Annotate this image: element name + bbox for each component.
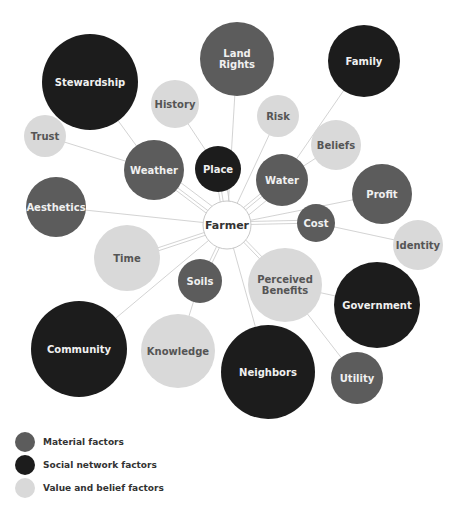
node-label: Profit — [366, 189, 398, 200]
node-trust: Trust — [24, 115, 66, 157]
social-swatch-icon — [15, 455, 35, 475]
node-cost: Cost — [297, 204, 335, 242]
node-label: Knowledge — [147, 346, 210, 357]
legend-label-social: Social network factors — [43, 460, 157, 470]
node-label: Identity — [396, 240, 441, 251]
node-label: Stewardship — [55, 77, 126, 88]
node-soils: Soils — [178, 259, 222, 303]
node-label: Aesthetics — [26, 202, 85, 213]
factor-network-diagram: StewardshipLandRightsFamilyHistoryRiskTr… — [0, 0, 464, 420]
node-beliefs: Beliefs — [311, 120, 361, 170]
node-land-rights: LandRights — [200, 22, 274, 96]
node-aesthetics: Aesthetics — [26, 177, 86, 237]
node-utility: Utility — [331, 352, 383, 404]
node-family: Family — [328, 25, 400, 97]
node-label: Soils — [187, 276, 214, 287]
node-history: History — [151, 80, 199, 128]
node-label: Water — [265, 175, 299, 186]
node-time: Time — [94, 225, 160, 291]
center-node-farmer: Farmer — [203, 201, 251, 249]
legend-item-social: Social network factors — [15, 453, 164, 476]
node-label: Benefits — [262, 285, 308, 296]
legend-item-material: Material factors — [15, 430, 164, 453]
node-stewardship: Stewardship — [42, 34, 138, 130]
node-label: History — [155, 99, 196, 110]
node-label: Land — [223, 48, 250, 59]
node-label: Family — [346, 56, 383, 67]
node-label: Place — [203, 164, 233, 175]
legend: Material factors Social network factors … — [15, 430, 164, 499]
node-profit: Profit — [352, 164, 412, 224]
node-place: Place — [195, 146, 241, 192]
node-label: Cost — [304, 218, 329, 229]
node-label: Rights — [219, 59, 255, 70]
node-perceived-benefits: PerceivedBenefits — [248, 248, 322, 322]
node-label: Beliefs — [317, 140, 355, 151]
node-identity: Identity — [393, 220, 443, 270]
node-label: Perceived — [257, 274, 313, 285]
node-label: Weather — [130, 165, 178, 176]
node-weather: Weather — [124, 140, 184, 200]
center-label: Farmer — [205, 219, 250, 232]
node-label: Community — [47, 344, 111, 355]
node-label: Trust — [31, 131, 60, 142]
node-label: Neighbors — [239, 367, 297, 378]
node-label: Time — [113, 253, 141, 264]
node-community: Community — [31, 301, 127, 397]
value-swatch-icon — [15, 478, 35, 498]
node-risk: Risk — [257, 95, 299, 137]
node-neighbors: Neighbors — [221, 325, 315, 419]
legend-label-value: Value and belief factors — [43, 483, 164, 493]
legend-item-value: Value and belief factors — [15, 476, 164, 499]
node-government: Government — [334, 262, 420, 348]
legend-label-material: Material factors — [43, 437, 124, 447]
node-label: Government — [342, 300, 412, 311]
node-water: Water — [256, 154, 308, 206]
material-swatch-icon — [15, 432, 35, 452]
node-label: Risk — [266, 111, 290, 122]
node-label: Utility — [340, 373, 375, 384]
node-knowledge: Knowledge — [141, 314, 215, 388]
